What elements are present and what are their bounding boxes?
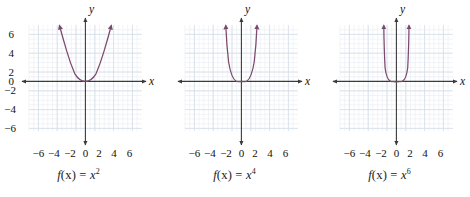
chart-panel-x6: y x −6 −4 −2 0 2 4 6 f(x) = x6 [311,0,468,197]
x-tick-label: 0 [83,147,89,159]
x-tick-label: 2 [252,147,258,159]
x-tick-label: 4 [267,147,273,159]
x-tick-label: −2 [220,147,232,159]
x-tick-label: 6 [438,147,444,159]
even-power-functions-figure: y x 6 4 2 0 −2 −4 −6 −6 −4 −2 0 2 4 6 [0,0,470,197]
x-tick-label: 0 [239,147,245,159]
caption-eq: = [387,168,401,182]
x-tick-label: −4 [204,147,216,159]
y-axis-label: y [244,3,251,16]
caption-arg: (x) [372,168,387,182]
chart-panel-x4: y x −6 −4 −2 0 2 4 6 f(x) = x4 [156,0,313,197]
x-tick-labels: −6 −4 −2 0 2 4 6 [344,147,444,159]
x-tick-label: 0 [394,147,400,159]
x-tick-label: 2 [407,147,413,159]
y-tick-label: −4 [4,103,16,115]
y-tick-label: −6 [4,122,16,134]
y-tick-label: 6 [9,28,15,40]
caption-exp: 2 [96,167,100,176]
y-axis-label: y [88,3,95,16]
panel-caption-x6: f(x) = x6 [311,168,468,183]
x-tick-label: −6 [344,147,356,159]
x-axis-label: x [304,75,311,87]
x-tick-labels: −6 −4 −2 0 2 4 6 [189,147,289,159]
y-tick-label: −2 [4,84,16,96]
x-axis-label: x [148,75,155,87]
panel-caption-x4: f(x) = x4 [156,168,313,183]
x-tick-label: −4 [359,147,371,159]
panel-caption-x2: f(x) = x2 [0,168,157,183]
x-tick-label: −6 [189,147,201,159]
chart-panel-x2: y x 6 4 2 0 −2 −4 −6 −6 −4 −2 0 2 4 6 [0,0,157,197]
x-tick-label: 6 [283,147,289,159]
caption-exp: 6 [407,167,411,176]
x-axis-label: x [459,75,466,87]
x-tick-label: −2 [64,147,76,159]
x-tick-label: −2 [375,147,387,159]
x-tick-label: −6 [33,147,45,159]
y-axis-label: y [399,3,406,16]
x-tick-label: 6 [127,147,133,159]
x-tick-label: −4 [48,147,60,159]
x-tick-label: 2 [96,147,102,159]
caption-arg: (x) [217,168,232,182]
x-tick-label: 4 [111,147,117,159]
caption-eq: = [76,168,90,182]
x-tick-label: 4 [422,147,428,159]
caption-eq: = [232,168,246,182]
caption-exp: 4 [252,167,256,176]
y-tick-labels: 6 4 2 0 −2 −4 −6 [4,28,16,134]
caption-arg: (x) [61,168,76,182]
y-tick-label: 4 [9,47,15,59]
x-tick-labels: −6 −4 −2 0 2 4 6 [33,147,133,159]
